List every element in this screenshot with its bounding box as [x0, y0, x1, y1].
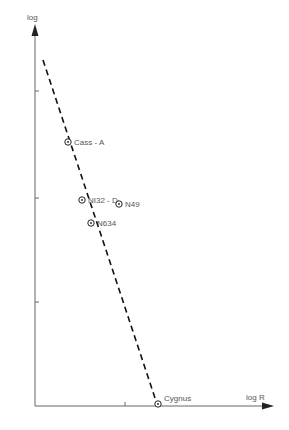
- point-label: N49: [125, 200, 140, 209]
- x-axis-label: log R: [246, 393, 265, 402]
- chart: log log R Cass - ANI32 - DN49N634Cygnus: [0, 0, 289, 430]
- data-points: Cass - ANI32 - DN49N634Cygnus: [65, 138, 191, 408]
- data-point: Cass - A: [65, 138, 105, 147]
- x-axis-arrow-icon: [262, 403, 274, 410]
- data-point: Cygnus: [155, 394, 191, 407]
- y-ticks: [35, 91, 39, 302]
- data-point: NI32 - D: [79, 196, 118, 205]
- y-axis-label: log: [27, 13, 38, 22]
- point-label: Cass - A: [74, 138, 105, 147]
- point-label: NI32 - D: [88, 196, 118, 205]
- data-point: N49: [116, 200, 140, 209]
- point-label: Cygnus: [164, 394, 191, 403]
- data-point: N634: [88, 219, 117, 228]
- fit-line: [43, 60, 157, 404]
- y-axis-arrow-icon: [32, 24, 39, 36]
- point-label: N634: [97, 219, 117, 228]
